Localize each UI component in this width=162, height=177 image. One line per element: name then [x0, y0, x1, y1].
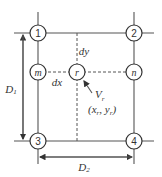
dy-label: dy	[79, 45, 90, 57]
node-m-label: m	[34, 67, 41, 78]
node-2: 2	[126, 25, 142, 41]
d2-dimension: D2	[40, 157, 132, 174]
d1-label: D1	[4, 83, 16, 96]
vr-label: Vr	[95, 88, 105, 103]
node-1-label: 1	[35, 28, 41, 39]
node-1: 1	[30, 25, 46, 41]
node-4-label: 4	[131, 136, 137, 147]
vr-coordinates: (xr, yr)	[88, 103, 116, 117]
node-n-label: n	[132, 67, 137, 78]
node-4: 4	[126, 133, 142, 149]
node-2-label: 2	[131, 28, 137, 39]
node-n: n	[126, 64, 142, 80]
node-m: m	[30, 64, 46, 80]
d2-label: D2	[77, 161, 90, 174]
d1-dimension: D1	[4, 35, 23, 139]
dx-label: dx	[52, 76, 63, 88]
node-r: r	[69, 64, 85, 80]
vr-pointer-arrow	[84, 81, 92, 93]
node-3-label: 3	[35, 136, 41, 147]
node-3: 3	[30, 133, 46, 149]
grid-diagram: D1 D2 dy dx Vr (xr, yr) 1 2 3 4 m n r	[0, 0, 162, 177]
node-r-label: r	[75, 67, 79, 78]
